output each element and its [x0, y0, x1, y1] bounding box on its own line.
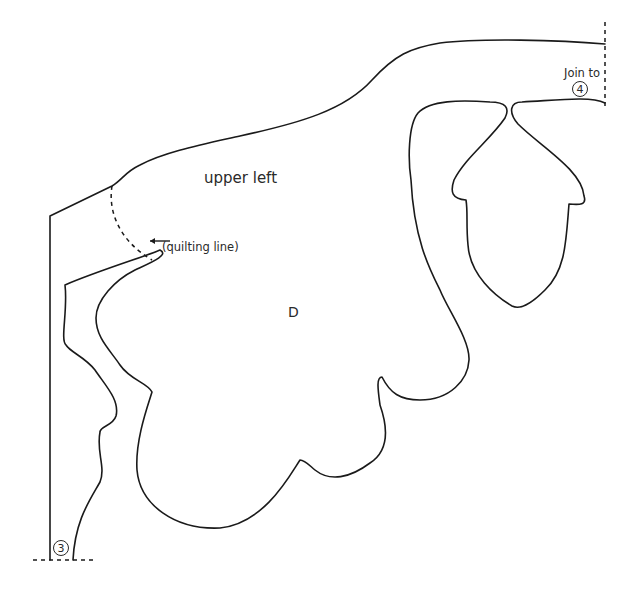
join-to-label: Join to [563, 66, 600, 80]
pattern-outline [50, 40, 605, 560]
quilting-line [111, 186, 152, 260]
piece-label: D [288, 304, 299, 320]
region-label: upper left [204, 169, 277, 187]
join-badge-3-number: 3 [58, 542, 65, 555]
join-badge-3: 3 [54, 541, 69, 556]
join-badge-4-number: 4 [577, 83, 584, 96]
quilting-line-label: (quilting line) [162, 240, 239, 254]
pattern-canvas: (quilting line) upper left D Join to 4 3 [0, 0, 641, 591]
join-badge-4: 4 [573, 82, 588, 97]
pattern-inner-leaf [64, 99, 605, 560]
